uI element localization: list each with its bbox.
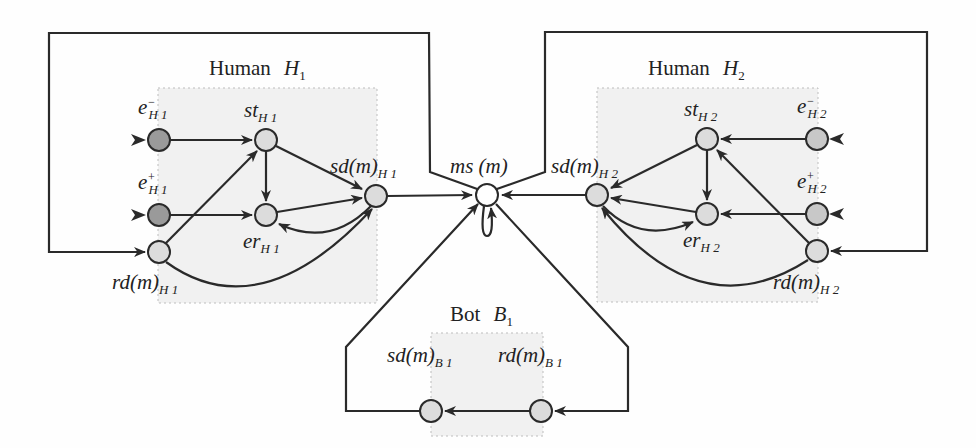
label-h2-e-minus: e−H 2 xyxy=(797,95,827,120)
node-h1-e-plus xyxy=(148,204,170,226)
input-chevron-h1-eminus xyxy=(131,134,146,146)
edge-ms-self-loop xyxy=(483,206,492,236)
label-b1-rd: rd(m)B 1 xyxy=(498,345,563,369)
label-h2-sd: sd(m)H 2 xyxy=(551,156,618,180)
label-h2-e-plus: e+H 2 xyxy=(797,170,827,195)
node-h2-st xyxy=(696,128,718,150)
node-h2-er xyxy=(696,203,718,225)
diagram-canvas: Human H1 Human H2 Bot B1 e−H 1 e+H 1 stH… xyxy=(0,0,976,448)
group-title-h2: Human H2 xyxy=(648,58,745,82)
label-h1-rd: rd(m)H 1 xyxy=(112,272,178,296)
edge-h1-sd-ms xyxy=(387,195,472,196)
label-b1-sd: sd(m)B 1 xyxy=(387,345,453,369)
group-title-subscript: 1 xyxy=(506,314,513,329)
node-h1-rd xyxy=(148,241,170,263)
node-b1-rd xyxy=(530,400,552,422)
group-title-symbol: B xyxy=(494,302,507,326)
label-h1-st: stH 1 xyxy=(244,100,277,124)
label-h1-sd: sd(m)H 1 xyxy=(330,156,397,180)
input-chevron-h2-eminus xyxy=(829,133,844,145)
node-h1-sd xyxy=(365,185,387,207)
group-title-b1: Bot B1 xyxy=(450,304,513,328)
input-chevron-h1-eplus xyxy=(131,209,146,221)
group-title-symbol: H xyxy=(284,56,299,80)
group-title-word: Human xyxy=(209,56,271,80)
label-h2-er: erH 2 xyxy=(683,230,720,254)
label-h2-st: stH 2 xyxy=(684,99,717,123)
node-h2-e-plus xyxy=(806,203,828,225)
label-h1-er: erH 1 xyxy=(243,231,280,255)
input-chevron-h2-eplus xyxy=(829,208,844,220)
label-h1-e-minus: e−H 1 xyxy=(138,96,168,121)
group-title-subscript: 1 xyxy=(299,68,306,83)
diagram-graphics xyxy=(0,0,976,448)
node-ms xyxy=(476,184,498,206)
node-h1-er xyxy=(255,204,277,226)
node-h1-e-minus xyxy=(148,129,170,151)
label-h1-e-plus: e+H 1 xyxy=(138,171,168,196)
group-title-symbol: H xyxy=(723,56,738,80)
label-ms: ms (m) xyxy=(450,156,508,177)
group-title-h1: Human H1 xyxy=(209,58,306,82)
label-h2-rd: rd(m)H 2 xyxy=(773,272,839,296)
group-title-word: Human xyxy=(648,56,710,80)
node-h2-e-minus xyxy=(806,128,828,150)
node-h1-st xyxy=(255,129,277,151)
group-title-subscript: 2 xyxy=(738,68,745,83)
node-b1-sd xyxy=(420,400,442,422)
node-h2-rd xyxy=(806,240,828,262)
node-h2-sd xyxy=(586,184,608,206)
group-title-word: Bot xyxy=(450,302,480,326)
